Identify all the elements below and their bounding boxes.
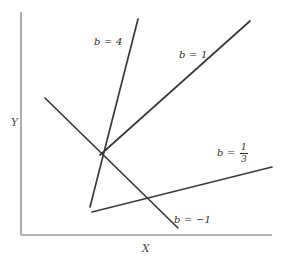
annotation-b1-value: 1: [201, 49, 208, 60]
annotation-b-negative-one-prefix: b: [174, 214, 181, 225]
annotation-b1-prefix: b: [179, 49, 186, 60]
annotation-b4-value: 4: [116, 36, 123, 47]
slope-line-b-negative-one: [45, 98, 178, 228]
fraction-one-third: 1 3: [240, 143, 248, 164]
annotation-b-one-third: b = 1 3: [217, 143, 248, 164]
axis-group: [21, 12, 272, 235]
annotation-b-one-third-prefix: b: [217, 147, 224, 158]
annotation-b-negative-one: b = −1: [174, 215, 211, 225]
annotation-b1-equals: =: [189, 49, 198, 60]
slope-line-b4: [90, 19, 138, 207]
annotation-b-negative-one-value: −1: [196, 214, 211, 225]
slope-line-b-one-third: [92, 167, 272, 212]
plot-canvas: [0, 0, 286, 263]
annotation-b4-equals: =: [104, 36, 113, 47]
fraction-numerator: 1: [240, 143, 248, 153]
annotation-b4: b = 4: [94, 37, 123, 47]
slope-diagram-figure: Y X b = 4 b = 1 b = 1 3 b = −1: [0, 0, 286, 263]
annotation-b1: b = 1: [179, 50, 208, 60]
x-axis-label: X: [142, 243, 149, 254]
annotation-b-negative-one-equals: =: [184, 214, 193, 225]
slope-lines-group: [45, 19, 272, 228]
y-axis-label: Y: [11, 117, 18, 128]
annotation-b4-prefix: b: [94, 36, 101, 47]
annotation-b-one-third-equals: =: [227, 147, 236, 158]
fraction-denominator: 3: [240, 154, 248, 164]
